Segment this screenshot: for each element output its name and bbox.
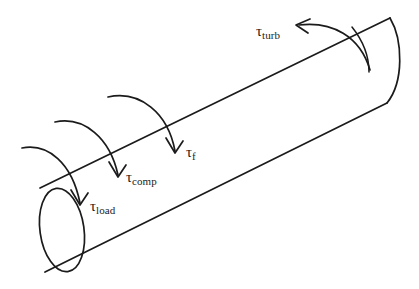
tau-subscript-turb: turb	[262, 29, 280, 41]
torque-arrow-turb-head	[296, 19, 310, 33]
torque-label-turb: τturb	[256, 24, 280, 41]
torque-arrow-load	[22, 147, 88, 205]
torque-label-load: τload	[90, 199, 115, 216]
torque-arrow-turb	[296, 19, 370, 70]
torque-label-comp: τcomp	[126, 170, 157, 187]
tau-subscript-comp: comp	[132, 175, 157, 187]
tau-subscript-load: load	[96, 204, 115, 216]
torque-arrow-f-arc	[108, 96, 175, 151]
torque-label-f: τf	[186, 145, 196, 162]
shaft-drawing	[0, 0, 419, 289]
shaft-bottom-edge	[45, 103, 387, 272]
shaft-torque-diagram: τturb τf τcomp τload	[0, 0, 419, 289]
shaft-top-edge	[40, 18, 390, 188]
shaft-body	[34, 18, 399, 275]
torque-arrow-turb-arc	[299, 24, 370, 70]
shaft-right-end-cap-arc	[387, 18, 400, 103]
tau-subscript-f: f	[192, 150, 196, 162]
shaft-left-end-cap-ellipse	[34, 185, 89, 274]
